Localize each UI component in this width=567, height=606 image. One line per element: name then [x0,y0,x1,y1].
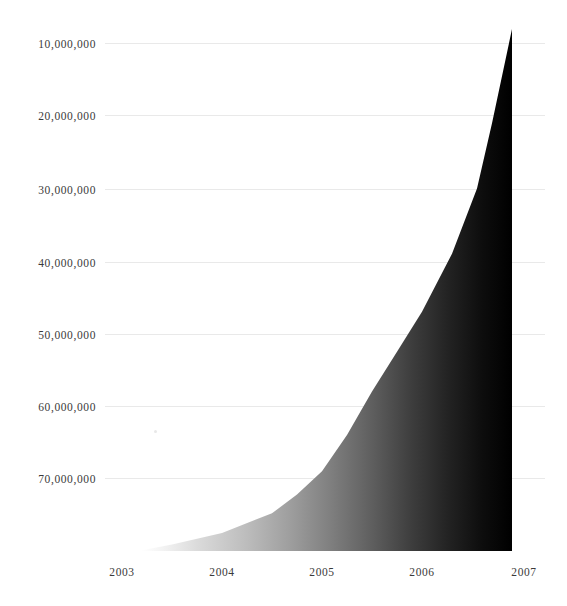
x-axis-tick-label: 2004 [209,566,234,578]
x-axis-tick-label: 2005 [309,566,334,578]
stray-speck-artifact [154,430,157,433]
x-axis-tick-label: 2006 [409,566,434,578]
area-chart: 10,000,00020,000,00030,000,00040,000,000… [0,0,567,606]
x-axis-tick-labels: 20032004200520062007 [0,0,567,606]
x-axis-tick-label: 2003 [109,566,134,578]
x-axis-tick-label: 2007 [511,566,536,578]
